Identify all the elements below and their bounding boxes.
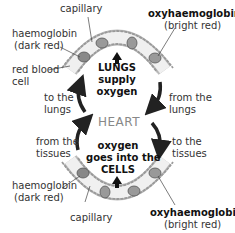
label-red-blood: red blood bbox=[12, 64, 59, 76]
to-lungs-arrow-icon bbox=[78, 84, 85, 112]
label-to-the-lungs-1: to the bbox=[44, 92, 74, 104]
label-capillary-top: capillary bbox=[60, 3, 102, 15]
label-haemoglobin-top: haemoglobin bbox=[12, 28, 77, 40]
label-oxyhaemoglobin-bottom-note: (bright red) bbox=[164, 219, 221, 231]
label-from-the-tissues-2: tissues bbox=[36, 148, 71, 160]
label-cells: CELLS bbox=[86, 164, 150, 176]
label-goes-into-the: goes into the bbox=[86, 152, 150, 164]
label-haemoglobin-bottom-note: (dark red) bbox=[14, 192, 64, 204]
label-cell: cell bbox=[12, 76, 29, 88]
label-capillary-bottom: capillary bbox=[70, 212, 112, 224]
label-heart: HEART bbox=[98, 115, 140, 129]
rbc bbox=[96, 38, 108, 48]
label-oxyhaemoglobin-top: oxyhaemoglobin bbox=[148, 8, 235, 20]
label-from-the-lungs-1: from the bbox=[169, 92, 212, 104]
label-to-the-tissues-2: tissues bbox=[172, 148, 207, 160]
label-oxyhaemoglobin-top-note: (bright red) bbox=[164, 20, 221, 32]
rbc bbox=[127, 37, 137, 49]
label-oxyhaemoglobin-bottom: oxyhaemoglobin bbox=[150, 207, 235, 219]
label-supply: supply bbox=[95, 74, 139, 86]
label-oxygen-bottom: oxygen bbox=[86, 140, 150, 152]
label-from-the-lungs-2: lungs bbox=[169, 104, 196, 116]
label-haemoglobin-bottom: haemoglobin bbox=[12, 180, 77, 192]
to-tissues-arrow-icon bbox=[152, 123, 160, 150]
label-lungs: LUNGS bbox=[95, 62, 139, 74]
label-haemoglobin-top-note: (dark red) bbox=[14, 40, 64, 52]
label-to-the-lungs-2: lungs bbox=[44, 104, 71, 116]
label-to-the-tissues-1: to the bbox=[172, 136, 202, 148]
label-from-the-tissues-1: from the bbox=[36, 136, 79, 148]
from-lungs-arrow-icon bbox=[152, 82, 160, 108]
label-oxygen: oxygen bbox=[95, 86, 139, 98]
